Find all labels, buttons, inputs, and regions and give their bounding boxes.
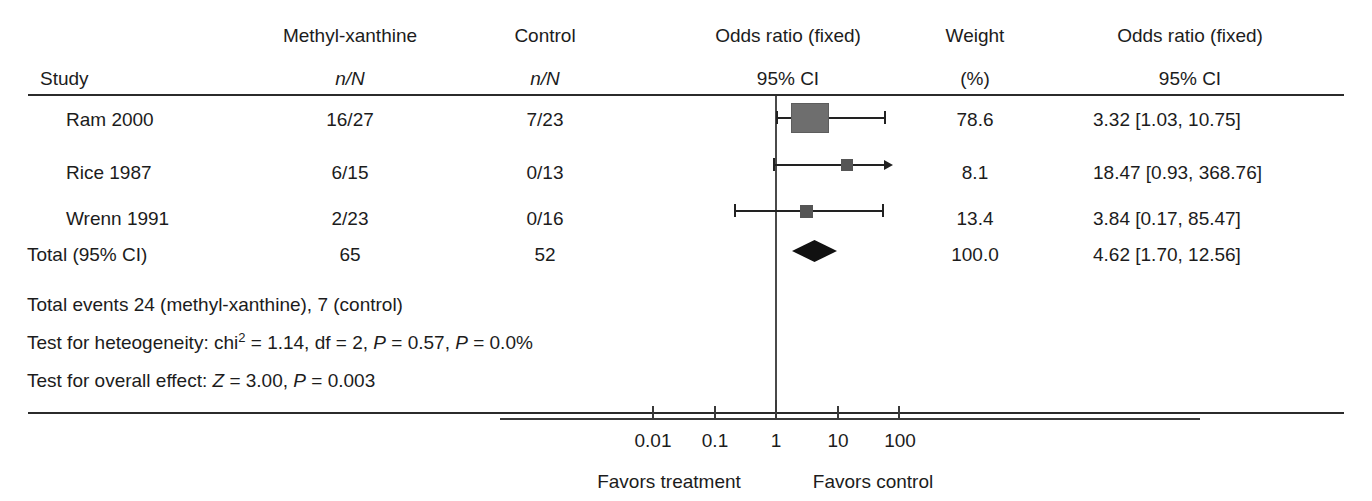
ci-line-1 <box>773 164 886 166</box>
ci-cap-left-0 <box>776 111 778 124</box>
x-axis-tick-0 <box>652 406 654 419</box>
x-axis-tick-label-1: 0.1 <box>702 430 728 452</box>
table-row-control-2: 0/16 <box>527 209 564 228</box>
total-events-note: Total events 24 (methyl-xanthine), 7 (co… <box>27 295 403 314</box>
header-plot-ci: 95% CI <box>757 69 819 88</box>
table-row-effect-1: 18.47 [0.93, 368.76] <box>1093 163 1262 182</box>
header-study: Study <box>40 69 89 88</box>
ci-cap-right-2 <box>882 204 884 217</box>
x-axis-line <box>500 418 1200 420</box>
favors-treatment-label: Favors treatment <box>597 471 741 493</box>
header-divider-rule <box>28 94 1344 96</box>
total-row-effect: 4.62 [1.70, 12.56] <box>1093 245 1241 264</box>
header-weight: Weight <box>946 26 1005 45</box>
x-axis-tick-label-4: 100 <box>884 430 916 452</box>
effect-marker-box-2 <box>800 205 813 218</box>
x-axis-tick-2 <box>775 400 777 419</box>
header-plot-oddsratio: Odds ratio (fixed) <box>715 26 861 45</box>
table-row-weight-2: 13.4 <box>957 209 994 228</box>
table-row-study-1: Rice 1987 <box>66 163 152 182</box>
table-row-control-0: 7/23 <box>527 110 564 129</box>
table-row-treatment-2: 2/23 <box>332 209 369 228</box>
x-axis-tick-label-0: 0.01 <box>635 430 672 452</box>
table-row-treatment-0: 16/27 <box>326 110 374 129</box>
heterogeneity-mid: = 1.14, df = 2, <box>245 332 373 353</box>
heterogeneity-p1-symbol: P <box>373 332 386 353</box>
heterogeneity-prefix: Test for heteogeneity: chi <box>27 332 238 353</box>
ci-cap-right-0 <box>884 111 886 124</box>
header-effect-ci: 95% CI <box>1159 69 1221 88</box>
header-control-nn: n/N <box>530 69 560 88</box>
heterogeneity-note: Test for heteogeneity: chi2 = 1.14, df =… <box>27 333 533 352</box>
x-axis-tick-label-3: 10 <box>827 430 848 452</box>
table-row-effect-2: 3.84 [0.17, 85.47] <box>1093 209 1241 228</box>
heterogeneity-p1-value: = 0.57, <box>386 332 455 353</box>
table-row-weight-0: 78.6 <box>957 110 994 129</box>
table-row-control-1: 0/13 <box>527 163 564 182</box>
ci-cap-left-2 <box>734 204 736 217</box>
summary-diamond <box>792 240 837 262</box>
heterogeneity-p2-value: = 0.0% <box>468 332 533 353</box>
header-weight-pct: (%) <box>960 69 990 88</box>
ci-arrow-right-1 <box>884 160 893 170</box>
total-row-label: Total (95% CI) <box>27 245 147 264</box>
overall-z-value: = 3.00, <box>224 370 293 391</box>
table-row-weight-1: 8.1 <box>962 163 988 182</box>
heterogeneity-p2-symbol: P <box>455 332 468 353</box>
overall-p-symbol: P <box>293 370 306 391</box>
favors-control-label: Favors control <box>813 471 933 493</box>
ci-cap-left-1 <box>773 158 775 171</box>
effect-marker-box-0 <box>791 103 829 133</box>
header-effect-oddsratio: Odds ratio (fixed) <box>1117 26 1263 45</box>
total-row-treatment: 65 <box>339 245 360 264</box>
total-row-control: 52 <box>534 245 555 264</box>
effect-marker-box-1 <box>841 159 853 171</box>
overall-effect-note: Test for overall effect: Z = 3.00, P = 0… <box>27 371 375 390</box>
x-axis-tick-4 <box>898 406 900 419</box>
header-treatment-nn: n/N <box>335 69 365 88</box>
table-row-study-0: Ram 2000 <box>66 110 154 129</box>
x-axis-tick-label-2: 1 <box>771 430 782 452</box>
forest-plot-figure: Methyl-xanthine n/N Control n/N Odds rat… <box>0 0 1372 501</box>
null-effect-reference-line <box>775 96 777 412</box>
x-axis-tick-1 <box>714 406 716 419</box>
footer-divider-rule <box>28 412 1344 414</box>
table-row-study-2: Wrenn 1991 <box>66 209 169 228</box>
header-control-group: Control <box>514 26 575 45</box>
overall-p-value: = 0.003 <box>306 370 375 391</box>
total-row-weight: 100.0 <box>951 245 999 264</box>
table-row-effect-0: 3.32 [1.03, 10.75] <box>1093 110 1241 129</box>
x-axis-tick-3 <box>837 406 839 419</box>
overall-z-symbol: Z <box>213 370 225 391</box>
overall-effect-prefix: Test for overall effect: <box>27 370 213 391</box>
header-treatment-group: Methyl-xanthine <box>283 26 417 45</box>
table-row-treatment-1: 6/15 <box>332 163 369 182</box>
